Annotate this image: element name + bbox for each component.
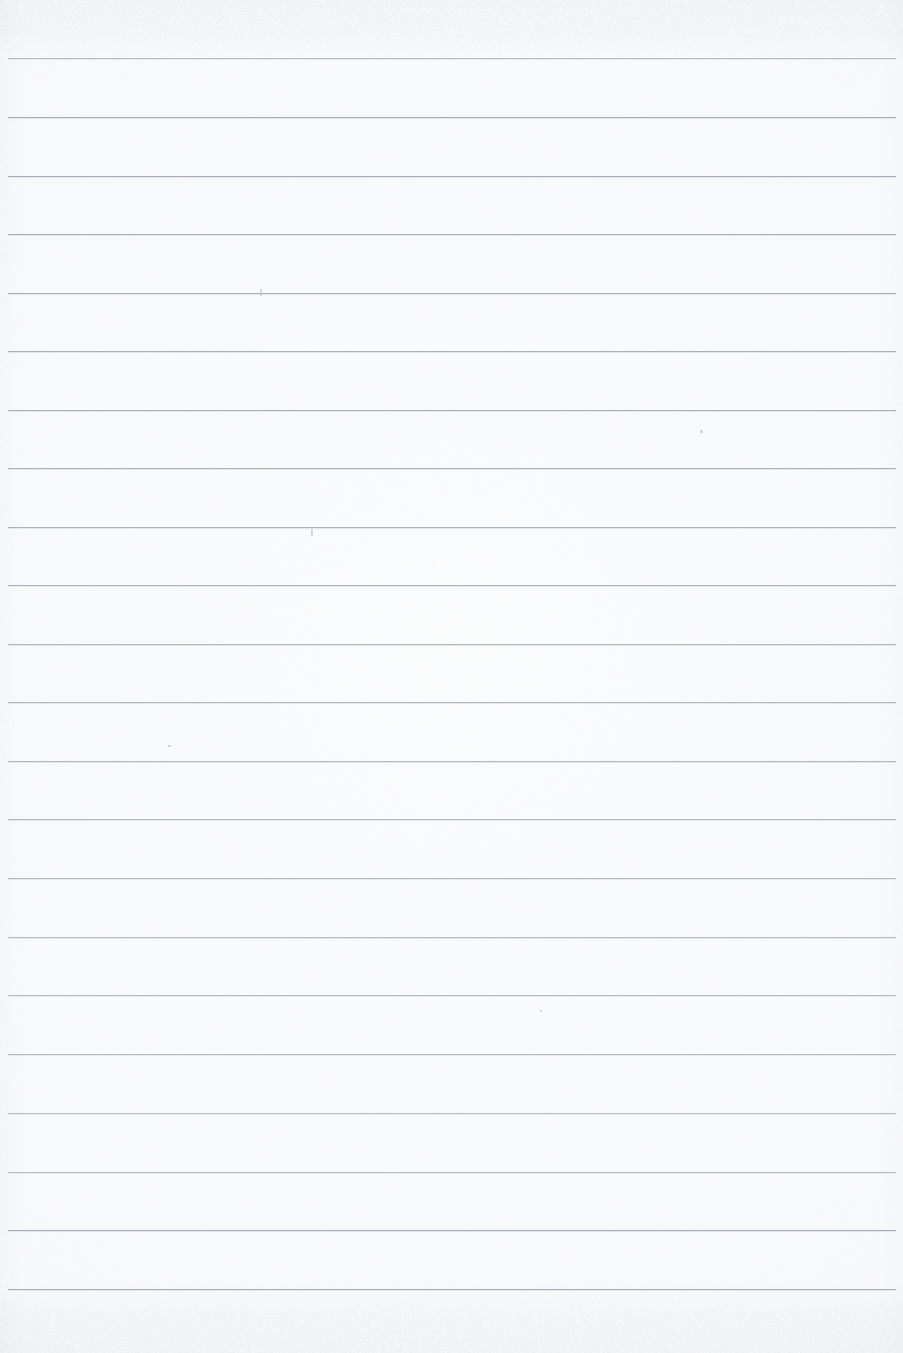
writing-line-row[interactable] <box>8 58 896 117</box>
writing-line-row[interactable] <box>8 351 896 410</box>
writing-line-row[interactable] <box>8 1113 896 1172</box>
writing-line-row[interactable] <box>8 819 896 878</box>
scan-speck <box>540 1010 542 1012</box>
writing-line-row[interactable] <box>8 937 896 995</box>
writing-line-row[interactable] <box>8 1054 896 1113</box>
writing-line-row[interactable] <box>8 878 896 937</box>
writing-line-row[interactable] <box>8 0 896 58</box>
writing-line-row[interactable] <box>8 410 896 468</box>
writing-line-row[interactable] <box>8 293 896 351</box>
writing-line-row[interactable] <box>8 1230 896 1289</box>
writing-line-row[interactable] <box>8 995 896 1054</box>
scanned-page <box>0 0 903 1353</box>
writing-line-row[interactable] <box>8 702 896 761</box>
scan-speck <box>260 289 262 296</box>
writing-line-row[interactable] <box>8 234 896 293</box>
writing-line-row[interactable] <box>8 1172 896 1230</box>
writing-line-row[interactable] <box>8 117 896 176</box>
scan-speck <box>311 529 313 536</box>
writing-line-row[interactable] <box>8 468 896 527</box>
writing-line-row[interactable] <box>8 585 896 644</box>
writing-line-row[interactable] <box>8 761 896 819</box>
scan-speck <box>168 745 171 747</box>
writing-line-row[interactable] <box>8 527 896 585</box>
scan-speck <box>700 430 703 433</box>
writing-line-row[interactable] <box>8 176 896 234</box>
writing-line-row[interactable] <box>8 644 896 702</box>
